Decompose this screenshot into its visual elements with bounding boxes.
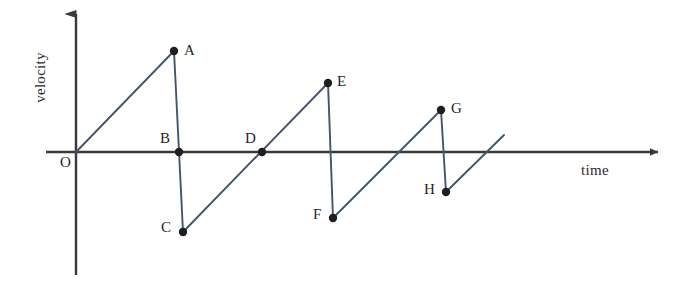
time-axis-label: time	[581, 163, 609, 178]
data-point-marker-D	[258, 148, 266, 156]
point-label-O: O	[60, 155, 71, 170]
data-point-marker-B	[175, 148, 183, 156]
point-label-D: D	[245, 131, 256, 146]
segment-ramp-F-to-G	[333, 110, 441, 218]
point-label-H: H	[424, 182, 435, 197]
data-point-marker-F	[329, 214, 337, 222]
point-label-G: G	[451, 101, 462, 116]
point-label-F: F	[313, 207, 321, 222]
data-point-marker-E	[324, 79, 332, 87]
data-point-marker-A	[170, 47, 178, 55]
axes-group	[46, 14, 658, 275]
segment-drop-E-to-F	[328, 83, 333, 218]
data-point-markers-group	[170, 47, 450, 236]
velocity-curve-group	[76, 51, 504, 232]
segment-ramp-C-to-E	[183, 83, 328, 232]
data-point-marker-H	[442, 188, 450, 196]
point-label-C: C	[161, 220, 171, 235]
point-label-E: E	[337, 74, 346, 89]
segment-ramp-H-to-end	[446, 135, 504, 192]
graph-canvas	[0, 0, 692, 281]
point-label-B: B	[160, 131, 170, 146]
segment-drop-A-to-C	[174, 51, 183, 232]
velocity-time-graph-figure: velocity time O A B C D E F G H	[0, 0, 692, 281]
velocity-axis-label: velocity	[33, 46, 48, 110]
point-label-A: A	[184, 43, 195, 58]
data-point-marker-C	[179, 228, 187, 236]
data-point-marker-G	[437, 106, 445, 114]
